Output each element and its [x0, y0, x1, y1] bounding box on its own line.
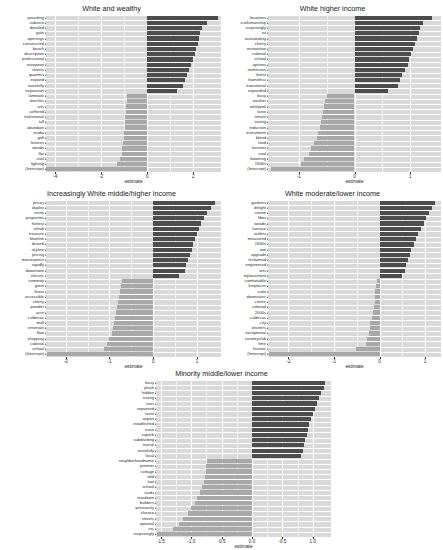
bar	[153, 221, 201, 225]
bar	[153, 242, 193, 246]
gridline-horizontal	[268, 279, 441, 280]
bar	[200, 490, 252, 494]
bar	[380, 201, 436, 205]
plot-area: gardensdelightsteamfiberwoodsfurnaceoutl…	[224, 200, 441, 357]
gridline-horizontal	[46, 62, 221, 63]
bar	[355, 47, 414, 51]
gridline-horizontal	[268, 347, 441, 348]
x-axis: -101estimate	[268, 172, 441, 185]
bar	[355, 16, 432, 20]
bar	[153, 232, 197, 236]
bar	[321, 120, 354, 124]
gridline-major	[161, 380, 162, 537]
bar	[153, 253, 190, 257]
facet-panel-1: White and wealthyprovidingsubzerodetaile…	[2, 4, 221, 185]
bar	[204, 480, 252, 484]
bar	[376, 284, 380, 288]
bar	[202, 485, 252, 489]
bar	[369, 331, 380, 335]
bar	[355, 68, 405, 72]
bar	[355, 26, 421, 30]
bar	[109, 337, 153, 341]
bar	[252, 449, 303, 453]
bar	[173, 527, 252, 531]
bar	[370, 326, 380, 330]
bar	[113, 326, 153, 330]
bar	[126, 104, 147, 108]
y-axis-tick-label: (Intercept)	[25, 352, 44, 356]
gridline-horizontal	[46, 273, 221, 274]
gridline-horizontal	[46, 263, 221, 264]
bar	[317, 136, 355, 140]
bar	[355, 84, 399, 88]
bar	[380, 227, 422, 231]
bar	[252, 412, 313, 416]
panel-background	[156, 380, 331, 537]
bar	[123, 141, 147, 145]
bar	[325, 99, 354, 103]
bar	[157, 532, 252, 536]
bar	[188, 511, 252, 515]
bar	[380, 274, 403, 278]
bar	[124, 131, 147, 135]
y-axis-tick-label: (Intercept)	[25, 167, 44, 171]
bar	[252, 396, 319, 400]
bar	[366, 342, 380, 346]
plot-area: pricesduplexnichepropertieshottestrehabt…	[2, 200, 221, 357]
bar	[125, 115, 147, 119]
gridline-horizontal	[268, 258, 441, 259]
bar	[380, 206, 432, 210]
gridline-horizontal	[46, 88, 221, 89]
bar	[118, 300, 153, 304]
y-axis-labels: busyplushhiddeneatingriverrepaintedtaste…	[112, 380, 156, 537]
bar	[147, 84, 183, 88]
bar	[380, 216, 426, 220]
bar	[252, 386, 324, 390]
gridline-horizontal	[268, 315, 441, 316]
gridline-major	[334, 200, 335, 357]
y-axis-labels: locationscraftsmanshipsurprisinglyezouts…	[224, 15, 268, 172]
x-axis-title: estimate	[268, 364, 441, 369]
bar	[120, 157, 147, 161]
facet-panel-4: White moderate/lower incomegardensdeligh…	[224, 189, 441, 370]
gridline-horizontal	[46, 73, 221, 74]
y-axis-tick-label: (Intercept)	[247, 352, 266, 356]
x-axis-title: estimate	[156, 544, 331, 549]
gridline-horizontal	[46, 258, 221, 259]
facet-title: White moderate/lower income	[224, 189, 441, 200]
bar	[116, 310, 153, 314]
bar	[309, 152, 355, 156]
bar	[122, 279, 154, 283]
gridline-horizontal	[156, 453, 331, 454]
bar	[380, 248, 412, 252]
bar	[126, 110, 147, 114]
bar	[355, 42, 415, 46]
y-axis-labels: pricesduplexnichepropertieshottestrehabt…	[2, 200, 46, 357]
gridline-horizontal	[46, 83, 221, 84]
y-axis-tick-label: surprisingly	[133, 532, 154, 536]
bar	[179, 522, 252, 526]
plot-area: locationscraftsmanshipsurprisinglyezouts…	[224, 15, 441, 172]
bar	[153, 269, 185, 273]
bar	[355, 36, 418, 40]
facet-panel-5: Minority middle/lower incomebusyplushhid…	[112, 369, 331, 550]
bar	[375, 300, 380, 304]
x-axis-title: estimate	[46, 179, 221, 184]
bar	[252, 391, 321, 395]
gridline-minor	[311, 200, 312, 357]
bar	[252, 401, 317, 405]
bar	[147, 21, 207, 25]
bar	[355, 73, 402, 77]
gridline-horizontal	[268, 284, 441, 285]
bar	[191, 506, 252, 510]
bar	[252, 422, 309, 426]
bar	[373, 310, 379, 314]
bar	[375, 295, 380, 299]
bar	[206, 464, 252, 468]
panel-background	[268, 15, 441, 172]
bar	[120, 289, 153, 293]
bar	[122, 152, 148, 156]
bar	[121, 284, 153, 288]
bar	[252, 454, 301, 458]
bar	[47, 352, 153, 356]
